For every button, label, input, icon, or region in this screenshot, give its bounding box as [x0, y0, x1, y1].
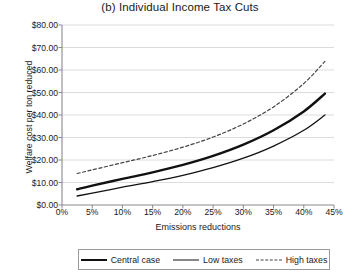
legend-line-low-taxes — [173, 257, 199, 263]
series-line-high-taxes — [77, 61, 325, 173]
series-line-central-case — [77, 94, 325, 190]
y-tick-label: $20.00 — [6, 155, 58, 165]
y-tick-label: $70.00 — [6, 43, 58, 53]
y-tick-label: $40.00 — [6, 110, 58, 120]
axis-ticks — [59, 25, 335, 209]
legend-line-high-taxes — [256, 257, 282, 263]
data-series — [77, 61, 325, 196]
y-tick-label: $50.00 — [6, 88, 58, 98]
legend-line-central-case — [81, 257, 107, 263]
legend-item-low-taxes: Low taxes — [173, 255, 243, 265]
y-tick-label: $80.00 — [6, 20, 58, 30]
y-tick-label: $30.00 — [6, 133, 58, 143]
legend-item-high-taxes: High taxes — [256, 255, 328, 265]
y-tick-label: $10.00 — [6, 178, 58, 188]
y-tick-labels: $0.00$10.00$20.00$30.00$40.00$50.00$60.0… — [0, 0, 58, 278]
y-tick-label: $60.00 — [6, 65, 58, 75]
chart-container: (b) Individual Income Tax Cuts Welfare c… — [0, 0, 360, 278]
legend-item-central-case: Central case — [81, 255, 160, 265]
series-line-low-taxes — [77, 115, 325, 196]
legend-label-high-taxes: High taxes — [286, 255, 328, 265]
legend-label-central-case: Central case — [111, 255, 160, 265]
x-axis-label: Emissions reductions — [62, 222, 334, 232]
x-tick-label: 45% — [314, 207, 354, 217]
legend-label-low-taxes: Low taxes — [203, 255, 243, 265]
legend: Central case Low taxes High taxes — [78, 249, 330, 270]
gridlines — [62, 25, 334, 183]
